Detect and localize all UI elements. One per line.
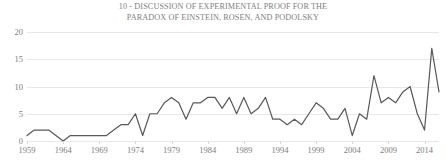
- y-tick-label: 5: [19, 109, 23, 119]
- series-polyline: [27, 48, 439, 141]
- line-series: [27, 32, 439, 141]
- x-tick-label: 1994: [271, 145, 288, 155]
- x-tick-label: 2014: [416, 145, 433, 155]
- x-tick-label: 2004: [344, 145, 361, 155]
- x-tick-label: 1984: [199, 145, 216, 155]
- x-tick-label: 1964: [55, 145, 72, 155]
- x-tick-mark: [352, 141, 353, 144]
- y-tick-label: 15: [15, 54, 24, 64]
- chart-title: 10 - DISCUSSION OF EXPERIMENTAL PROOF FO…: [45, 1, 401, 23]
- y-tick-label: 20: [15, 27, 24, 37]
- x-tick-mark: [135, 141, 136, 144]
- x-tick-mark: [425, 141, 426, 144]
- x-tick-mark: [99, 141, 100, 144]
- x-tick-mark: [208, 141, 209, 144]
- x-tick-mark: [27, 141, 28, 144]
- x-tick-mark: [388, 141, 389, 144]
- plot-area: 05101520: [27, 32, 439, 141]
- chart-container: 10 - DISCUSSION OF EXPERIMENTAL PROOF FO…: [0, 0, 446, 164]
- y-tick-label: 10: [15, 82, 24, 92]
- x-tick-label: 1969: [91, 145, 108, 155]
- x-tick-label: 1974: [127, 145, 144, 155]
- x-tick-label: 1999: [308, 145, 325, 155]
- x-tick-mark: [280, 141, 281, 144]
- x-tick-mark: [244, 141, 245, 144]
- gridline: [27, 141, 439, 142]
- x-tick-mark: [172, 141, 173, 144]
- x-tick-label: 1959: [19, 145, 36, 155]
- x-tick-mark: [63, 141, 64, 144]
- x-tick-label: 1979: [163, 145, 180, 155]
- x-tick-label: 2009: [380, 145, 397, 155]
- x-tick-mark: [316, 141, 317, 144]
- x-tick-label: 1989: [235, 145, 252, 155]
